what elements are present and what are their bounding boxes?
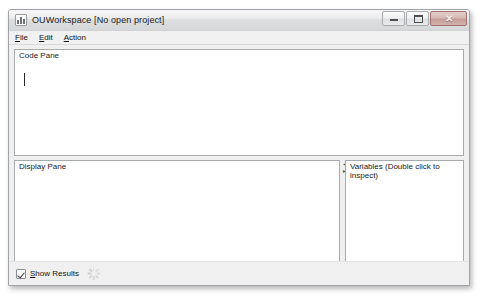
application-window: OUWorkspace [No open project] ✕ File Edi… [8,9,470,286]
title-bar-left: OUWorkspace [No open project] [9,10,164,30]
code-pane[interactable]: Code Pane [14,49,464,156]
variables-pane-title: Variables (Double click to inspect) [346,161,463,181]
screen: OUWorkspace [No open project] ✕ File Edi… [0,0,492,298]
maximize-icon [414,15,423,23]
minimize-button[interactable] [382,11,405,26]
busy-spinner-icon [87,267,100,280]
close-icon: ✕ [431,12,466,25]
code-pane-title: Code Pane [15,50,463,61]
show-results-rest: how Results [35,269,79,278]
display-pane[interactable]: Display Pane [14,160,340,264]
maximize-button[interactable] [406,11,429,26]
minimize-icon [390,19,398,21]
status-bar: Show Results [9,261,469,285]
close-button[interactable]: ✕ [430,11,467,26]
window-title: OUWorkspace [No open project] [32,16,164,25]
menu-file-rest: ile [20,33,28,42]
menu-bar: File Edit Action [9,31,469,45]
code-editor[interactable] [17,63,461,153]
menu-edit-rest: dit [44,33,52,42]
display-pane-title: Display Pane [15,161,339,172]
show-results-checkbox[interactable] [16,269,26,279]
title-bar[interactable]: OUWorkspace [No open project] ✕ [9,10,469,31]
bottom-split-container: Display Pane ◄ ► Variables (Double click… [14,160,464,264]
variables-pane[interactable]: Variables (Double click to inspect) [345,160,464,264]
client-area: Code Pane Display Pane ◄ ► Variables (D [9,46,469,285]
menu-item-file[interactable]: File [13,33,30,43]
show-results-checkbox-row[interactable]: Show Results [16,269,79,279]
chart-app-icon [15,14,27,26]
window-controls: ✕ [382,11,467,26]
text-caret [24,73,25,86]
menu-action-rest: ction [69,33,86,42]
menu-item-edit[interactable]: Edit [37,33,55,43]
show-results-label: Show Results [30,270,79,278]
menu-item-action[interactable]: Action [62,33,88,43]
